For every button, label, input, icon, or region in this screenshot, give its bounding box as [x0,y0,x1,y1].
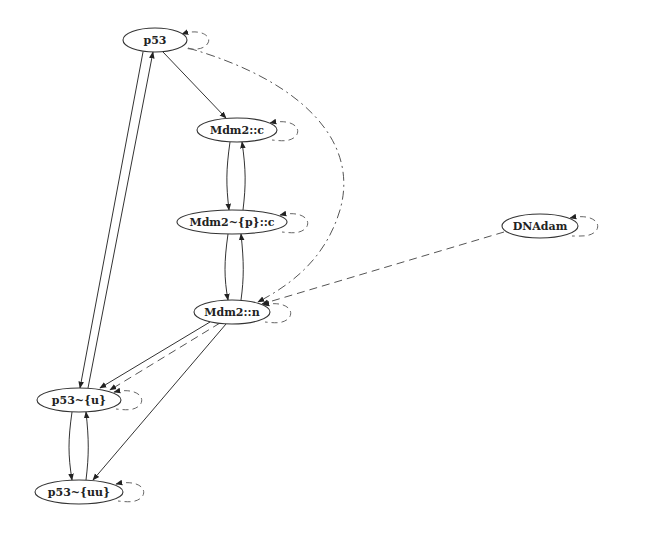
node-label: Mdm2::c [210,124,264,137]
self-loops [114,32,598,502]
node-p53[interactable]: p53 [123,28,187,52]
node-label: Mdm2~{p}::c [189,216,274,229]
edge-mdm2-n-to-p53-u-solid [100,322,210,388]
edge-p53-uu-to-p53-u [86,412,88,480]
node-dnadam[interactable]: DNAdam [502,214,578,238]
node-label: p53~{u} [52,394,106,407]
edge-p53-u-to-p53 [88,52,153,388]
node-label: DNAdam [513,220,568,233]
edge-mdm2-p-c-to-mdm2-n [225,234,228,300]
edge-mdm2-c-to-mdm2-p-c [227,142,230,210]
node-label: p53~{uu} [48,486,110,499]
edge-p53-u-to-p53-uu [69,412,72,480]
graph-canvas: p53 Mdm2::c Mdm2~{p}::c DNAdam Mdm2::n p… [0,0,646,538]
edge-mdm2-p-c-to-mdm2-c [242,142,245,210]
node-p53-uu[interactable]: p53~{uu} [35,480,123,504]
edge-dnadam-to-mdm2-n [262,232,504,304]
edge-p53-to-mdm2-c [163,52,226,118]
edge-mdm2-n-to-mdm2-p-c [241,234,243,300]
edges [69,48,504,480]
node-mdm2-n[interactable]: Mdm2::n [194,300,270,324]
node-p53-u[interactable]: p53~{u} [37,388,121,412]
node-label: p53 [144,34,167,47]
node-mdm2-p-c[interactable]: Mdm2~{p}::c [177,210,287,234]
node-label: Mdm2::n [204,306,259,319]
edge-p53-to-p53-u [80,52,143,388]
node-mdm2-c[interactable]: Mdm2::c [197,118,277,142]
edge-p53-to-mdm2-n [188,48,344,302]
edge-mdm2-n-to-p53-u-dashed [110,323,220,390]
